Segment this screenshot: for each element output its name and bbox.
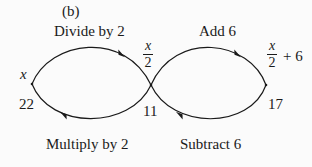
arrow-subtract-icon [174,112,184,120]
node-right [265,84,268,87]
right-expr-denominator: 2 [269,56,276,70]
right-node-expr: x 2 [267,39,277,70]
left-node-value: 22 [19,97,34,112]
panel-label: (b) [62,4,80,19]
op-label-multiply: Multiply by 2 [46,137,129,152]
center-expr-numerator: x [144,39,152,53]
center-node-expr: x 2 [143,39,153,70]
arc-divide-by-2 [32,47,151,85]
node-left [31,83,34,86]
right-expr-numerator: x [268,39,276,53]
op-label-subtract: Subtract 6 [180,137,241,152]
op-label-divide: Divide by 2 [54,24,125,39]
right-node-value: 17 [268,97,283,112]
center-expr-denominator: 2 [145,56,152,70]
node-center [150,84,153,87]
left-node-expr: x [20,67,27,82]
arc-subtract-6 [151,85,266,119]
arc-multiply-by-2 [32,84,151,119]
arc-add-6 [151,47,266,85]
center-node-value: 11 [143,104,157,119]
op-label-add: Add 6 [199,24,236,39]
right-expr-suffix: + 6 [283,49,303,64]
arrow-multiply-icon [58,112,68,120]
